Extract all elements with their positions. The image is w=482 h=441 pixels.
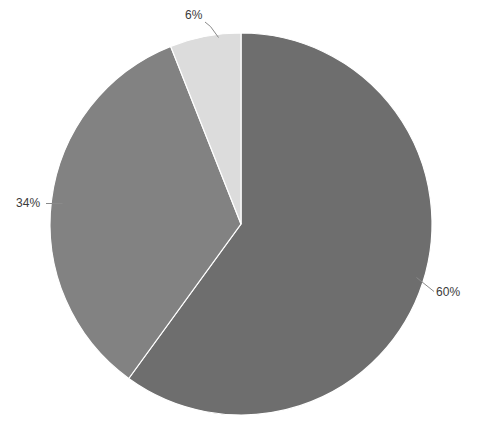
pie-label-34-percent: 34% (16, 196, 40, 210)
pie-chart-svg (0, 0, 482, 441)
pie-label-6-percent: 6% (185, 8, 203, 22)
pie-label-60-percent: 60% (436, 285, 460, 299)
pie-chart-figure: 6% 34% 60% (0, 0, 482, 441)
